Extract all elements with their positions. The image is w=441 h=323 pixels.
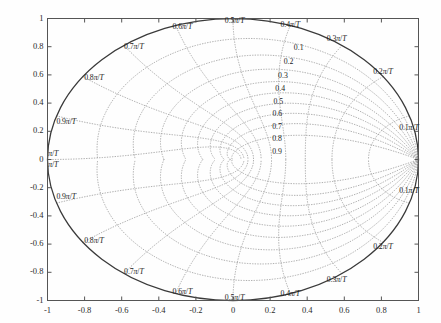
frequency-annotation: 0.7π/T <box>124 267 144 276</box>
x-tick-label: 0.2 <box>259 305 281 315</box>
damping-ratio-annotation: 0.9 <box>272 147 282 156</box>
x-tick-label: -0.8 <box>74 305 96 315</box>
freq-locus-0.9 <box>57 116 244 159</box>
frequency-annotation: 0.2π/T <box>373 242 393 251</box>
freq-locus-neg-0.4 <box>279 160 291 294</box>
zgrid-plot <box>0 0 441 323</box>
unit-circle-layer <box>48 19 419 301</box>
frequency-annotation: 0.4π/T <box>281 289 301 298</box>
freq-locus-neg-0.8 <box>83 160 248 243</box>
damping-ratio-annotation: 0.7 <box>272 122 282 131</box>
x-tick-label: -0.4 <box>148 305 170 315</box>
y-tick-label: 0.4 <box>8 97 44 107</box>
freq-locus-0.2 <box>332 77 383 160</box>
y-tick-label: -0.6 <box>8 238 44 248</box>
y-tick-label: -1 <box>8 295 44 305</box>
damping-ratio-annotation: 0.4 <box>275 84 285 93</box>
x-tick-label: -1 <box>37 305 59 315</box>
damping-spiral-neg-0.1 <box>97 160 418 281</box>
freq-locus-neg-0.3 <box>305 160 342 274</box>
unit-circle <box>48 19 419 301</box>
damping-ratio-annotation: 0.6 <box>273 109 283 118</box>
x-tick-label: 1 <box>408 305 430 315</box>
damping-ratio-annotation: 0.1 <box>294 43 304 52</box>
damping-ratio-annotation: 0.5 <box>273 97 283 106</box>
y-tick-label: -0.4 <box>8 210 44 220</box>
damping-spiral-0.5 <box>198 93 419 160</box>
damping-spiral-0.1 <box>97 38 418 159</box>
axis-box <box>48 19 419 301</box>
x-tick-label: 0.8 <box>370 305 392 315</box>
frequency-annotation: 0.9π/T <box>56 117 76 126</box>
frequency-annotation: 0.1π/T <box>399 186 419 195</box>
y-tick-label: 0.8 <box>8 41 44 51</box>
x-tick-label: -0.2 <box>185 305 207 315</box>
frequency-annotation: π/T <box>48 149 58 158</box>
x-tick-label: 0.6 <box>333 305 355 315</box>
y-tick-label: 0 <box>8 154 44 164</box>
damping-spiral-0.4 <box>181 82 418 160</box>
frequency-annotation: 0.4π/T <box>281 20 301 29</box>
figure-canvas: -1-0.8-0.6-0.4-0.200.20.40.60.8110.80.60… <box>0 0 441 323</box>
freq-locus-0.3 <box>305 45 342 159</box>
damping-spiral-neg-0.3 <box>160 160 418 250</box>
frequency-annotation: 0.6π/T <box>173 22 193 31</box>
frequency-annotation: 0.1π/T <box>399 123 419 132</box>
frequency-annotation: 0.7π/T <box>124 42 144 51</box>
damping-ratio-annotation: 0.2 <box>284 57 294 66</box>
frequency-annotation: π/T <box>48 160 58 169</box>
frequency-annotation: 0.5π/T <box>225 293 245 302</box>
freq-locus-1 <box>48 147 242 160</box>
y-tick-label: -0.2 <box>8 182 44 192</box>
damping-spiral-0.8 <box>227 124 418 160</box>
damping-spiral-0.9 <box>232 135 419 159</box>
damping-ratio-annotation: 0.8 <box>272 134 282 143</box>
damping-spiral-0.3 <box>160 69 418 159</box>
x-tick-label: 0.4 <box>296 305 318 315</box>
axis-box-layer <box>48 19 419 301</box>
frequency-annotation: 0.9π/T <box>56 192 76 201</box>
y-tick-label: 0.6 <box>8 69 44 79</box>
freq-locus-neg-0.2 <box>332 160 383 243</box>
freq-locus-0.7 <box>124 45 254 159</box>
damping-spiral-neg-0.5 <box>198 160 419 227</box>
frequency-annotation: 0.3π/T <box>327 275 347 284</box>
damping-spiral-neg-0.4 <box>181 160 418 238</box>
freq-locus-0.8 <box>83 77 248 160</box>
damping-spiral-neg-0.9 <box>232 160 419 184</box>
frequency-annotation: 0.8π/T <box>84 73 104 82</box>
freq-locus-neg-0.7 <box>124 160 254 274</box>
frequency-annotation: 0.8π/T <box>84 236 104 245</box>
x-tick-label: -0.6 <box>111 305 133 315</box>
damping-spiral-neg-0.6 <box>210 160 418 216</box>
frequency-annotation: 0.5π/T <box>225 16 245 25</box>
damping-ratio-annotation: 0.3 <box>278 71 288 80</box>
x-tick-label: 0 <box>222 305 244 315</box>
freq-locus-neg-0.9 <box>57 160 244 203</box>
y-tick-label: 0.2 <box>8 125 44 135</box>
damping-spiral-neg-0.8 <box>227 160 418 196</box>
y-tick-label: 1 <box>8 13 44 23</box>
frequency-annotation: 0.3π/T <box>327 34 347 43</box>
freq-locus-neg-0.6 <box>176 160 261 294</box>
freq-locus-0.6 <box>176 25 261 159</box>
y-tick-label: -0.8 <box>8 266 44 276</box>
frequency-annotation: 0.6π/T <box>173 287 193 296</box>
damping-spiral-0.6 <box>210 103 418 159</box>
grid-layer <box>48 19 419 301</box>
frequency-annotation: 0.2π/T <box>373 67 393 76</box>
